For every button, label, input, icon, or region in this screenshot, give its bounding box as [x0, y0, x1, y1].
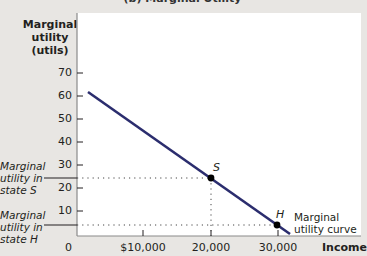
- curve-label-line: Marginal: [294, 211, 357, 223]
- point-h: [274, 222, 281, 229]
- point-s: [208, 175, 215, 182]
- point-h-label: H: [276, 208, 284, 221]
- curve-label-line: utility curve: [294, 223, 357, 235]
- point-s-label: S: [213, 161, 220, 174]
- curve-label: Marginal utility curve: [294, 211, 357, 235]
- marginal-utility-curve: [88, 92, 290, 234]
